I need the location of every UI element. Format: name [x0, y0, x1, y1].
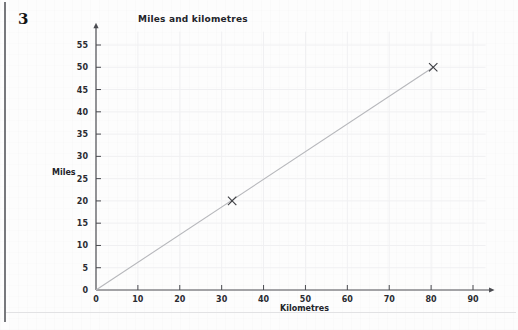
x-tick-label: 20	[174, 295, 185, 304]
y-axis-title: Miles	[52, 168, 76, 177]
y-tick-label: 30	[77, 152, 88, 161]
y-tick-label: 50	[77, 63, 88, 72]
y-tick-label: 5	[82, 263, 88, 272]
y-tick-label: 10	[77, 241, 88, 250]
conversion-graph	[0, 0, 518, 330]
y-tick-label: 55	[77, 41, 88, 50]
x-tick-label: 50	[300, 295, 311, 304]
x-tick-label: 10	[132, 295, 143, 304]
x-tick-label: 60	[342, 295, 353, 304]
x-tick-label: 80	[426, 295, 437, 304]
x-tick-label: 30	[216, 295, 227, 304]
x-tick-label: 40	[258, 295, 269, 304]
y-tick-label: 0	[82, 286, 88, 295]
y-tick-label: 15	[77, 219, 88, 228]
x-tick-label: 0	[93, 295, 99, 304]
y-tick-label: 20	[77, 196, 88, 205]
worksheet-page: 3 Miles and kilometres 05101520253035404…	[0, 0, 518, 330]
x-axis-title: Kilometres	[280, 304, 329, 313]
y-tick-label: 40	[77, 107, 88, 116]
y-tick-label: 35	[77, 130, 88, 139]
x-tick-label: 90	[467, 295, 478, 304]
y-tick-label: 25	[77, 174, 88, 183]
y-tick-label: 45	[77, 85, 88, 94]
x-tick-label: 70	[384, 295, 395, 304]
